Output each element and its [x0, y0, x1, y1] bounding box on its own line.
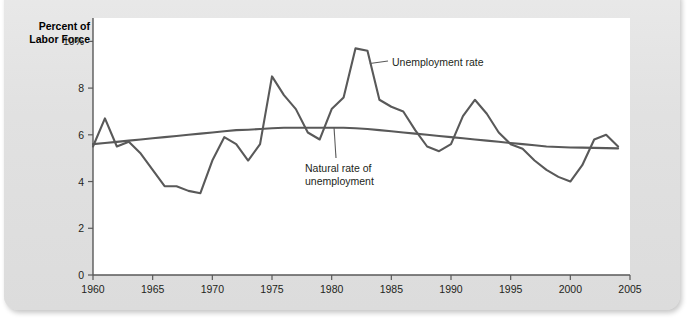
y-tick-label-2: 2	[42, 223, 84, 233]
y-tick-label-4: 4	[42, 177, 84, 187]
x-tick-label-2005: 2005	[607, 284, 653, 294]
x-tick-label-1985: 1985	[368, 284, 414, 294]
x-tick-label-1960: 1960	[70, 284, 116, 294]
x-tick-label-1965: 1965	[130, 284, 176, 294]
annotation-unemployment-rate: Unemployment rate	[392, 56, 484, 69]
annotation-natural-rate: Natural rate of unemployment	[305, 162, 374, 187]
y-tick-label-0: 0	[42, 270, 84, 280]
x-tick-label-1975: 1975	[249, 284, 295, 294]
unemployment-rate-figure: Percent of Labor Force 0 2 4 6 8 10% 196…	[0, 0, 691, 330]
x-tick-label-1970: 1970	[189, 284, 235, 294]
y-tick-label-6: 6	[42, 130, 84, 140]
x-tick-label-1980: 1980	[309, 284, 355, 294]
x-tick-label-1995: 1995	[488, 284, 534, 294]
y-tick-label-8: 8	[42, 83, 84, 93]
x-tick-label-2000: 2000	[547, 284, 593, 294]
y-tick-label-10: 10%	[42, 36, 84, 46]
x-tick-label-1990: 1990	[428, 284, 474, 294]
plot-panel	[93, 18, 630, 275]
